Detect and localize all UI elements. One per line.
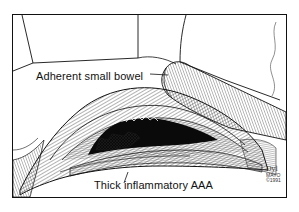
label-adherent-small-bowel: Adherent small bowel <box>36 70 143 82</box>
frame-border <box>12 14 287 198</box>
artist-signature: Dyl MAYO ©1991 <box>266 166 281 183</box>
signature-line3: ©1991 <box>266 178 281 183</box>
label-thick-inflammatory-aaa: Thick inflammatory AAA <box>94 179 213 191</box>
